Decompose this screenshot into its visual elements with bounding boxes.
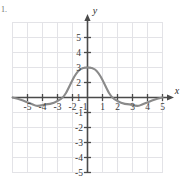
y-axis-label: y	[92, 5, 98, 16]
x-axis-label: x	[174, 85, 180, 96]
y-tick-label: -1	[75, 108, 83, 118]
y-tick-label: -4	[75, 153, 83, 163]
coordinate-plane: -5 -4 -3 -2 -1 1 2 3 4 5 5 4 3 2 1 -1 -2…	[0, 0, 183, 186]
x-tick-label: 5	[160, 102, 165, 112]
x-tick-label: 2	[115, 102, 120, 112]
y-tick-label: 2	[76, 78, 81, 88]
graph-figure: 1.	[0, 0, 183, 186]
y-axis-arrow	[84, 14, 90, 21]
x-tick-label: 3	[130, 102, 135, 112]
x-axis-arrow	[167, 94, 174, 100]
x-tick-label: -3	[54, 102, 62, 112]
y-tick-label: -3	[75, 138, 83, 148]
y-tick-label: -2	[75, 123, 83, 133]
y-tick-label: 3	[76, 63, 81, 73]
x-tick-label: -5	[24, 102, 32, 112]
x-tick-label: 1	[100, 102, 105, 112]
y-tick-label: 5	[76, 33, 81, 43]
y-tick-label: 1	[76, 93, 81, 103]
y-tick-label: -5	[75, 168, 83, 178]
y-tick-label: 4	[76, 48, 81, 58]
x-tick-label: -4	[39, 102, 47, 112]
x-tick-label: 4	[145, 102, 150, 112]
